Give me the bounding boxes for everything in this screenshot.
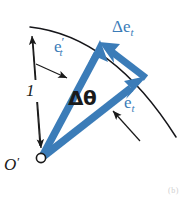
vector-diagram-svg <box>0 0 194 201</box>
label-delta-et: Δet <box>112 18 134 35</box>
label-et-subscript: t <box>132 102 135 114</box>
label-origin-base: O <box>4 155 16 174</box>
caption-artifact: (b) <box>168 186 179 195</box>
label-et-base: e <box>124 93 132 112</box>
label-radius-one: 1 <box>26 82 35 99</box>
label-origin: O′ <box>4 156 19 173</box>
figure-container: e′t Δet et Δθ 1 O′ (b) <box>0 0 194 201</box>
label-origin-prime: ′ <box>16 154 19 169</box>
label-et-prime-subscript: t <box>59 46 62 58</box>
label-delta-et-base: Δe <box>112 17 130 36</box>
label-et: et <box>124 94 135 111</box>
label-delta-et-subscript: t <box>130 26 133 38</box>
label-delta-theta: Δθ <box>68 88 96 108</box>
origin-point-marker <box>36 153 45 162</box>
leader-arrow-et <box>113 111 140 141</box>
leader-arrow-et-prime <box>36 64 67 78</box>
label-et-prime: e′t <box>54 38 67 55</box>
